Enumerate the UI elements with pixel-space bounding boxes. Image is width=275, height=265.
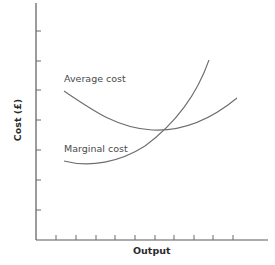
chart-canvas <box>0 0 275 265</box>
average-cost-curve <box>64 91 237 130</box>
y-axis-ticks <box>36 31 41 210</box>
y-axis-label: Cost (£) <box>12 90 23 150</box>
average-cost-label: Average cost <box>64 73 126 84</box>
x-axis-label: Output <box>133 245 171 256</box>
marginal-cost-label: Marginal cost <box>64 143 128 154</box>
x-axis-ticks <box>56 235 233 240</box>
